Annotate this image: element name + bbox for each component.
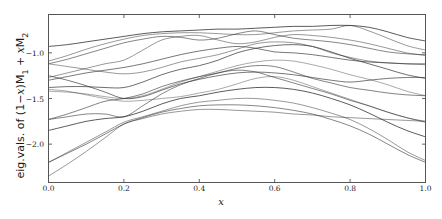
x-tick-label: 0.8 <box>344 184 356 193</box>
x-axis-label: x <box>0 196 442 207</box>
y-tick-label: −2.0 <box>20 140 44 149</box>
y-axis-label: eig.vals. of (1−x)M1 + xM2 <box>14 21 29 191</box>
plot-canvas <box>0 0 442 219</box>
y-axis-label-m2: M <box>14 38 27 48</box>
x-tick-label: 1.0 <box>420 184 432 193</box>
eigenvalue-plot-figure: eig.vals. of (1−x)M1 + xM2 x 0.00.20.40.… <box>0 0 442 219</box>
y-axis-label-mid: )M <box>14 75 27 89</box>
y-axis-label-sub2: 2 <box>21 33 30 38</box>
x-tick-label: 0.0 <box>43 184 55 193</box>
y-axis-label-prefix: eig.vals. of (1− <box>14 95 27 179</box>
x-tick-label: 0.6 <box>269 184 281 193</box>
y-tick-label: −1.0 <box>20 48 44 57</box>
y-tick-label: −1.5 <box>20 94 44 103</box>
x-tick-label: 0.4 <box>193 184 205 193</box>
x-tick-label: 0.2 <box>118 184 130 193</box>
y-axis-label-sub1: 1 <box>21 70 30 75</box>
